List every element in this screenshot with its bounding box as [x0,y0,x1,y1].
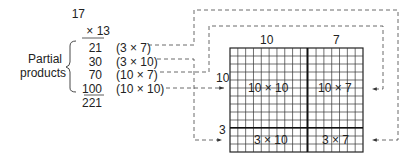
cell-label-10x7: 10 × 7 [318,82,352,95]
connector-3x10 [157,59,222,140]
area-model-diagram [0,0,419,160]
cell-label-10x10: 10 × 10 [248,82,288,95]
cell-label-3x7: 3 × 7 [322,134,349,147]
partial-products-brace-icon [66,41,76,92]
cell-label-3x10: 3 × 10 [254,134,288,147]
